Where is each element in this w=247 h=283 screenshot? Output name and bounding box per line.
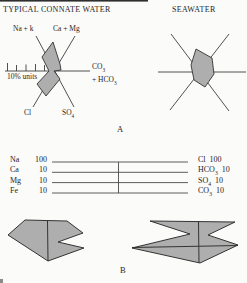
- axis-label-cl: Cl: [24, 108, 31, 117]
- seawater-title: SEAWATER: [172, 5, 216, 14]
- stiff-shape-right: [132, 221, 238, 263]
- figure-page: TYPICAL CONNATE WATER SEAWATER Na + k Ca…: [0, 0, 247, 283]
- anion-scale-row: SO410: [198, 176, 223, 185]
- anion-scale-row: CO310: [198, 186, 224, 195]
- axis-label-co3: CO3: [92, 62, 105, 71]
- cation-scale-row: Fe10: [10, 186, 47, 195]
- top-border-artifact: [0, 0, 148, 2]
- stiff-shape-left-axis: [48, 221, 49, 262]
- axis-label-hco3: + HCO3: [92, 75, 117, 84]
- anion-scale-row: Cl100: [198, 155, 222, 164]
- stiff-shape-left: [8, 220, 84, 261]
- axis-label-na-k: Na + k: [13, 24, 33, 33]
- stiff-template-lines: [52, 162, 188, 193]
- cation-scale-row: Mg10: [10, 176, 47, 185]
- scale-units-label: 10% units: [7, 72, 37, 81]
- water-pattern-figure: [0, 0, 247, 283]
- panel-a-label: A: [117, 125, 124, 134]
- stiff-shape-right-axis: [199, 222, 200, 264]
- connate-star-polygon: [37, 42, 61, 96]
- seawater-star-polygon: [191, 49, 214, 87]
- cation-scale-row: Ca10: [10, 165, 47, 174]
- connate-title: TYPICAL CONNATE WATER: [3, 5, 111, 14]
- corner-artifact: [0, 279, 3, 283]
- axis-label-ca-mg: Ca + Mg: [53, 24, 80, 33]
- panel-b-label: B: [120, 266, 126, 275]
- cation-scale-row: Na100: [10, 155, 47, 164]
- anion-scale-row: HCO310: [198, 165, 230, 174]
- axis-label-so4: SO4: [62, 108, 74, 117]
